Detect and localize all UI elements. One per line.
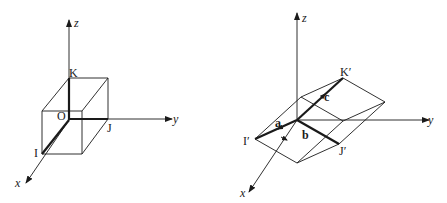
left-figure <box>26 20 172 183</box>
point-i-prime-label: I′ <box>243 134 250 148</box>
right-labels: z y x K′ I′ J′ a b c <box>239 11 434 200</box>
point-j-prime-label: J′ <box>339 144 347 158</box>
vector-a-label: a <box>275 116 281 130</box>
origin-label: O <box>57 109 66 123</box>
point-k-prime-label: K′ <box>340 65 352 79</box>
point-k-label: K <box>69 66 78 80</box>
y-axis-label: y <box>172 112 179 126</box>
point-i-label: I <box>34 146 38 160</box>
x-axis-label: x <box>239 186 246 200</box>
y-axis-label: y <box>427 113 434 127</box>
z-axis-label: z <box>73 16 79 30</box>
point-j-label: J <box>107 121 112 135</box>
x-axis-label: x <box>14 176 21 190</box>
unit-vector-i <box>42 120 69 154</box>
right-figure <box>249 13 429 192</box>
z-axis-label: z <box>301 11 307 25</box>
vector-c-label: c <box>324 90 330 104</box>
diagram-canvas: z y x K O J I z <box>0 0 447 203</box>
vector-b-label: b <box>302 128 309 142</box>
